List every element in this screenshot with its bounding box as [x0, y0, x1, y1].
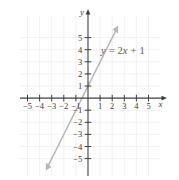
- x-tick-label: −3: [47, 101, 56, 111]
- y-tick-label: 4: [78, 45, 83, 55]
- coordinate-plane: −5 −4 −3 −2 −1 1 2 3 4 5 5 4 3 2 1 −1 −2…: [0, 0, 179, 180]
- x-tick-label: 4: [134, 101, 139, 111]
- x-tick-label: 1: [98, 101, 102, 111]
- y-tick-label: −5: [73, 154, 82, 164]
- y-axis-label: y: [79, 7, 84, 17]
- equation-plus: +: [131, 45, 137, 56]
- y-tick-label: −1: [73, 105, 82, 115]
- gridlines: [20, 16, 160, 176]
- y-tick-label: 3: [78, 57, 82, 67]
- x-tick-label: 3: [122, 101, 126, 111]
- equation-lhs: y: [100, 45, 106, 56]
- equation-constant: 1: [139, 45, 144, 56]
- x-axis-label: x: [158, 99, 163, 109]
- y-tick-label: −2: [73, 117, 82, 127]
- equation-variable: x: [122, 45, 128, 56]
- graph-figure: −5 −4 −3 −2 −1 1 2 3 4 5 5 4 3 2 1 −1 −2…: [0, 0, 179, 180]
- y-tick-label: 5: [78, 33, 82, 43]
- x-tick-label: −2: [59, 101, 68, 111]
- x-tick-label: −4: [35, 101, 45, 111]
- y-axis-arrowhead: [86, 9, 91, 15]
- x-tick-labels: −5 −4 −3 −2 −1 1 2 3 4 5: [23, 101, 151, 111]
- x-tick-label: 5: [146, 101, 150, 111]
- axes: [20, 9, 167, 176]
- equation-equals: =: [109, 45, 115, 56]
- y-tick-label: −3: [73, 129, 82, 139]
- y-tick-label: −4: [73, 142, 83, 152]
- y-tick-label: 1: [78, 81, 82, 91]
- x-tick-label: −5: [23, 101, 32, 111]
- y-tick-label: 2: [78, 69, 82, 79]
- x-tick-label: 2: [110, 101, 114, 111]
